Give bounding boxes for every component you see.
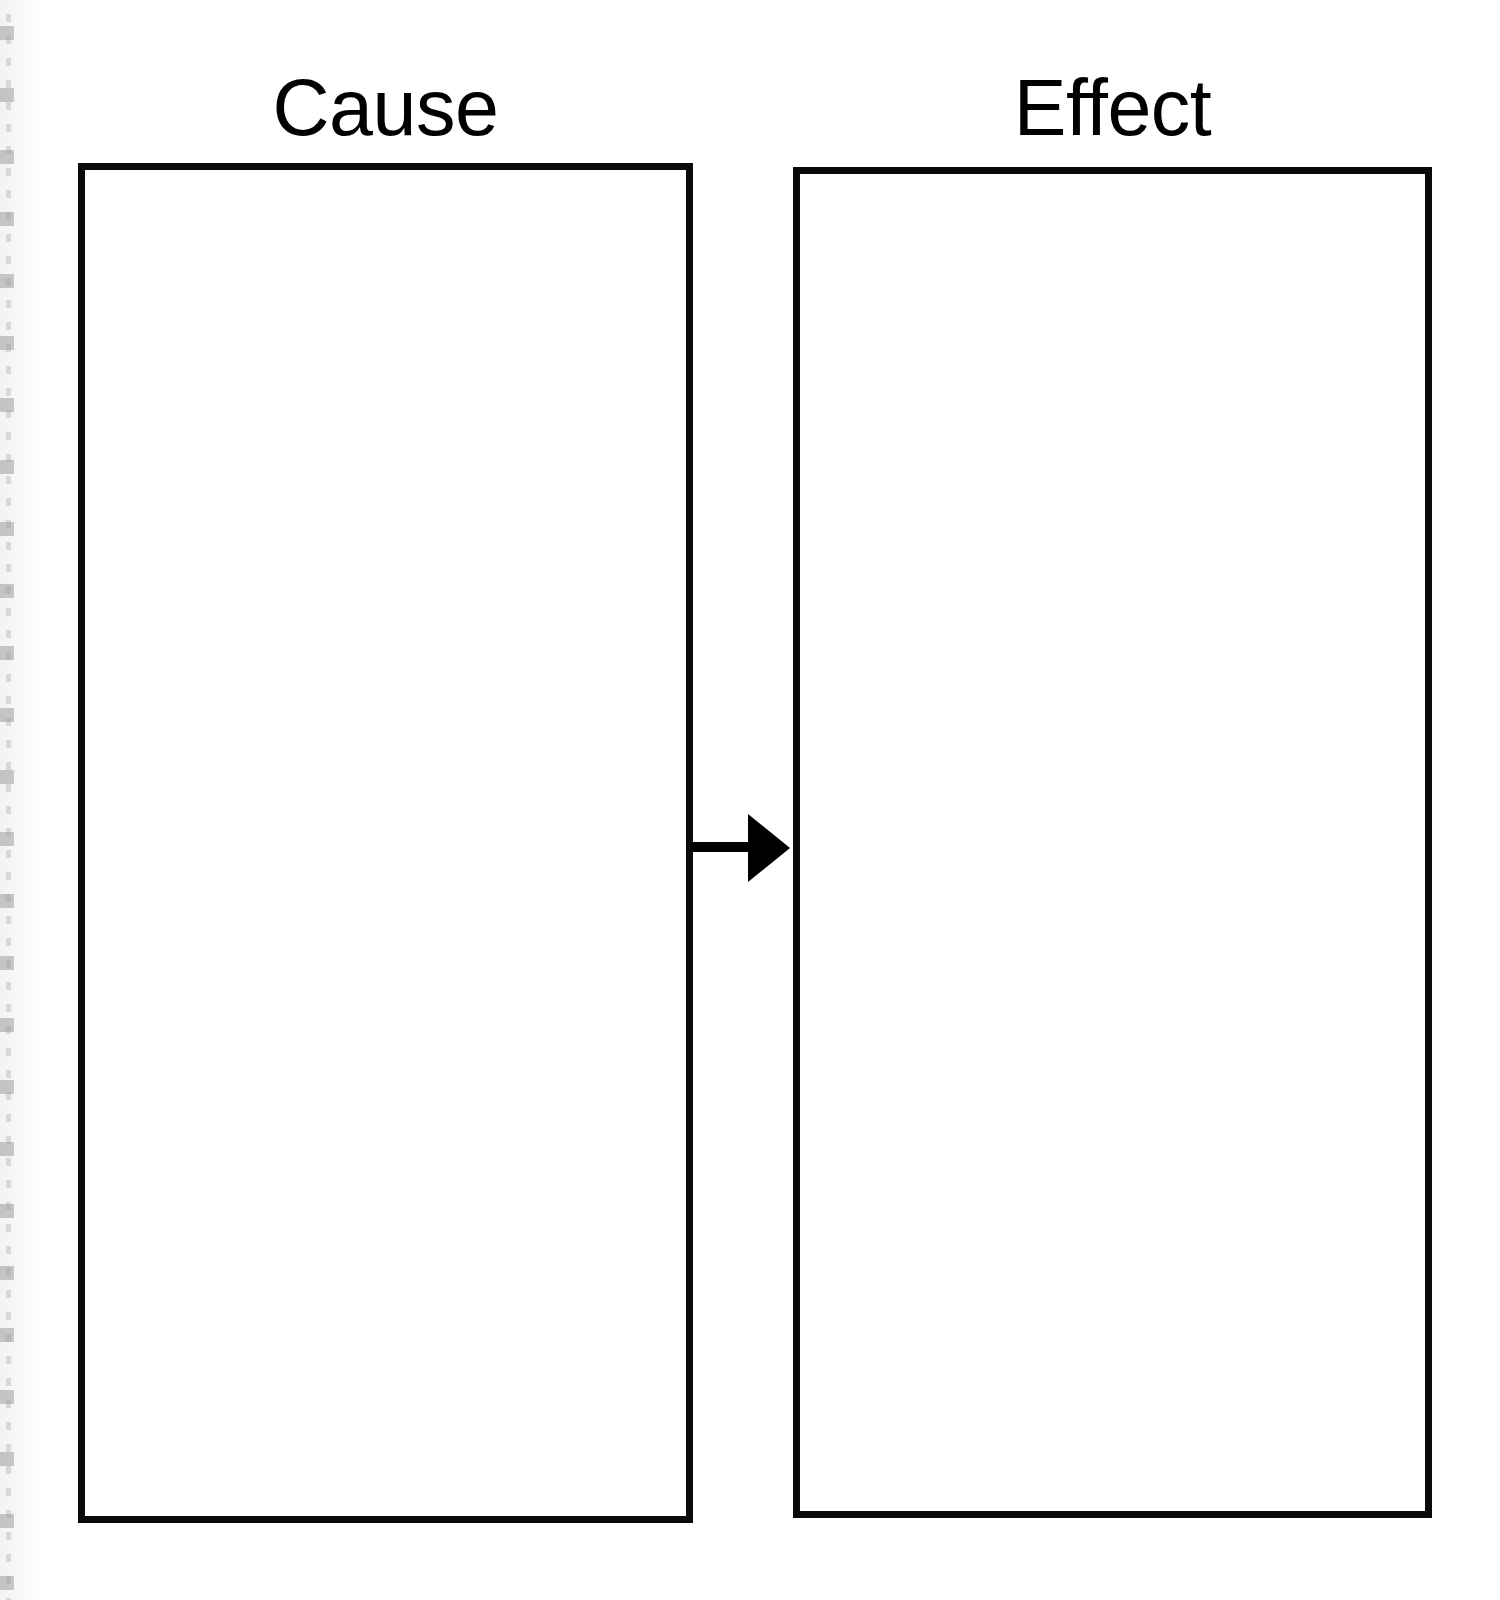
spiral-binding-artifact <box>0 0 14 1600</box>
effect-answer-box[interactable] <box>793 167 1432 1518</box>
arrow-right-icon <box>690 810 796 886</box>
page-edge-shadow <box>0 0 40 1600</box>
spiral-binding-artifact-secondary <box>6 0 11 1600</box>
worksheet-page: Cause Effect <box>0 0 1500 1600</box>
cause-answer-box[interactable] <box>78 163 693 1523</box>
column-heading-effect: Effect <box>793 68 1432 147</box>
column-heading-cause: Cause <box>78 68 693 147</box>
